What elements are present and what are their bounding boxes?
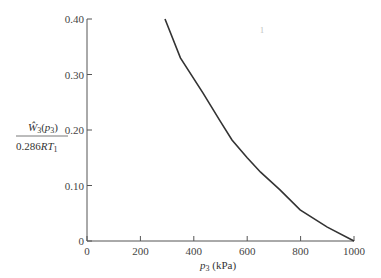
chart: 00.100.200.300.40 02004006008001000 p3 (… xyxy=(0,0,381,278)
x-ticks: 02004006008001000 xyxy=(84,236,365,257)
x-tick-label: 1000 xyxy=(343,245,366,257)
y-tick-label: 0.20 xyxy=(65,124,85,136)
svg-text:Ŵ3(p3): Ŵ3(p3) xyxy=(28,121,58,135)
y-tick-label: 0.30 xyxy=(65,69,85,81)
data-curve xyxy=(165,19,354,241)
y-axis-label: Ŵ3(p3) 0.286RT1 xyxy=(16,121,68,154)
x-tick-label: 400 xyxy=(186,245,203,257)
x-axis-label: p3 (kPa) xyxy=(199,259,236,273)
svg-text:0.286RT1: 0.286RT1 xyxy=(16,140,58,154)
stray-mark: 1 xyxy=(260,26,264,35)
x-tick-label: 200 xyxy=(132,245,149,257)
x-tick-label: 0 xyxy=(84,245,90,257)
y-tick-label: 0.40 xyxy=(65,13,85,25)
y-tick-label: 0.10 xyxy=(65,180,85,192)
x-tick-label: 800 xyxy=(292,245,309,257)
y-ticks: 00.100.200.300.40 xyxy=(65,13,92,247)
x-tick-label: 600 xyxy=(239,245,256,257)
svg-text:p3 (kPa): p3 (kPa) xyxy=(199,259,236,273)
